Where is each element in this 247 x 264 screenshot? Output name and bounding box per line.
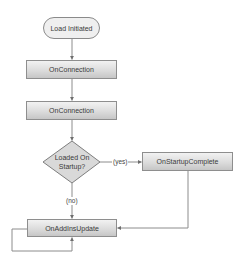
node-label: OnConnection <box>49 66 94 73</box>
node-onaddinsupdate: OnAddInsUpdate <box>27 219 117 237</box>
flowchart-canvas: Load Initiated OnConnection OnConnection… <box>0 0 247 264</box>
node-label: OnConnection <box>49 107 94 114</box>
node-label: OnStartupComplete <box>157 158 219 165</box>
edge-label-yes: (yes) <box>112 158 128 166</box>
node-onstartupcomplete: OnStartupComplete <box>142 152 233 171</box>
node-label: OnAddInsUpdate <box>45 225 99 232</box>
edge-label-no: (no) <box>65 197 79 205</box>
node-label: Load Initiated <box>50 25 92 32</box>
node-onconnection-2: OnConnection <box>26 101 117 120</box>
node-onconnection-1: OnConnection <box>26 60 117 79</box>
edge-onstartupcomplete-to-onaddinsupdate <box>118 171 189 228</box>
node-load-initiated: Load Initiated <box>43 17 100 39</box>
decision-label: Loaded On Startup? <box>47 153 97 171</box>
